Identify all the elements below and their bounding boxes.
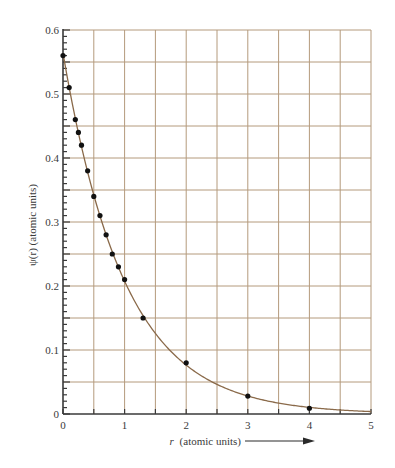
x-tick-label: 3: [245, 419, 251, 431]
y-tick-label: 0: [54, 408, 60, 420]
data-point: [122, 277, 127, 282]
data-point: [85, 168, 90, 173]
data-point: [140, 315, 145, 320]
chart: 012345 00.10.20.30.40.50.6 r (atomic uni…: [0, 0, 395, 468]
arrow-right-icon: [245, 438, 315, 445]
data-point: [245, 393, 250, 398]
x-tick-label: 5: [368, 419, 374, 431]
data-point: [104, 232, 109, 237]
y-tick-label: 0.5: [45, 88, 59, 100]
y-axis-title: ψ(r) (atomic units): [26, 184, 39, 266]
data-point: [110, 251, 115, 256]
y-tick-labels: 00.10.20.30.40.50.6: [45, 24, 59, 420]
data-point: [97, 213, 102, 218]
y-tick-label: 0.3: [45, 216, 59, 228]
data-point: [73, 117, 78, 122]
x-tick-label: 2: [183, 419, 189, 431]
y-tick-label: 0.1: [45, 344, 59, 356]
data-point: [76, 130, 81, 135]
x-axis-title-units: (atomic units): [180, 435, 242, 448]
data-point: [307, 406, 312, 411]
grid: [63, 30, 371, 414]
x-tick-label: 1: [122, 419, 128, 431]
x-tick-label: 0: [60, 419, 66, 431]
data-point: [116, 264, 121, 269]
data-point: [184, 360, 189, 365]
data-point: [60, 53, 65, 58]
x-tick-label: 4: [307, 419, 313, 431]
x-axis-title: r (atomic units): [170, 435, 242, 448]
x-tick-labels: 012345: [60, 419, 374, 431]
x-axis-title-var: r: [170, 435, 175, 447]
data-point: [67, 85, 72, 90]
data-point: [79, 143, 84, 148]
y-tick-label: 0.4: [45, 152, 59, 164]
y-tick-label: 0.2: [45, 280, 59, 292]
data-point: [91, 194, 96, 199]
y-tick-label: 0.6: [45, 24, 59, 36]
